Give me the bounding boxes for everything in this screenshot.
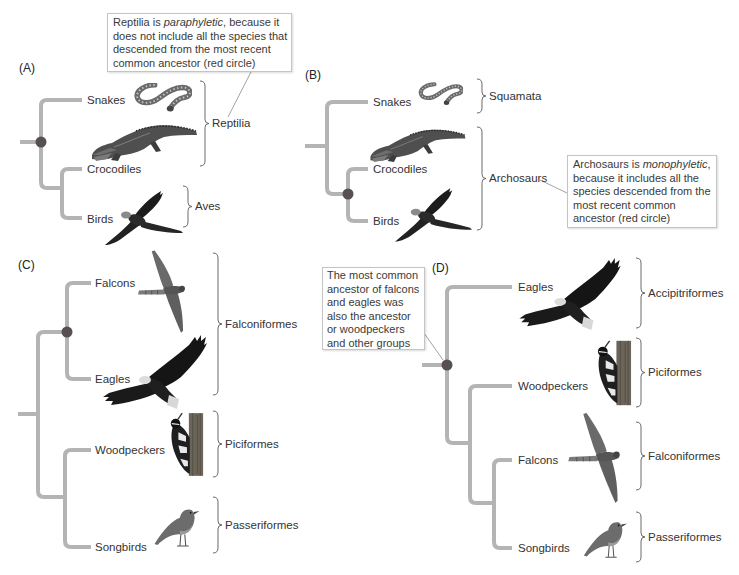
- bracket-aves: [183, 186, 192, 227]
- branch-woodpeckers: [470, 386, 512, 503]
- main-branch: [38, 332, 67, 497]
- callout-paraphyletic: Reptilia is paraphyletic, because it doe…: [107, 13, 292, 72]
- bracket-passeriformes: [636, 512, 645, 562]
- songbird-image: [584, 522, 627, 557]
- bracket-reptilia: [200, 81, 209, 166]
- snake-image: [137, 85, 190, 112]
- bird-image: [105, 191, 183, 245]
- phylogeny-figure: (A) Snakes Crocodiles Birds Reptilia Ave…: [0, 0, 739, 575]
- callout-pointer: [424, 333, 443, 360]
- bracket-archosaurs: [477, 127, 486, 230]
- panel-d-tree: [422, 258, 645, 562]
- group-label-archosaurs: Archosaurs: [489, 171, 547, 185]
- taxon-label-woodpeckers: Woodpeckers: [95, 443, 165, 457]
- bracket-passeriformes: [213, 497, 222, 553]
- callout-monophyletic: Archosaurs is monophyletic, because it i…: [567, 155, 717, 228]
- falcon-image: [138, 250, 185, 332]
- eagle-image: [519, 258, 620, 330]
- taxon-label-eagles: Eagles: [95, 372, 130, 386]
- taxon-label-birds: Birds: [373, 214, 399, 228]
- bird-image: [395, 188, 472, 241]
- branch-crocodiles-birds: [62, 169, 82, 218]
- callout-emphasis: monophyletic: [643, 158, 708, 170]
- callout-text: The most common ancestor of falcons and …: [327, 269, 419, 349]
- taxon-label-eagles: Eagles: [518, 280, 553, 294]
- bracket-piciformes: [636, 338, 645, 407]
- taxon-label-crocodiles: Crocodiles: [373, 162, 427, 176]
- bracket-accipitriformes: [636, 258, 645, 328]
- callout-text: Archosaurs is: [573, 158, 643, 170]
- panel-label: (B): [305, 68, 321, 82]
- ancestor-node: [36, 137, 47, 148]
- bracket-falconiformes: [636, 422, 645, 490]
- songbird-image: [155, 509, 200, 546]
- woodpecker-image: [171, 413, 203, 476]
- ancestor-node: [343, 189, 354, 200]
- ancestor-node: [62, 327, 73, 338]
- bracket-squamata: [477, 79, 486, 113]
- group-label-piciformes: Piciformes: [225, 437, 279, 451]
- taxon-label-falcons: Falcons: [518, 453, 558, 467]
- snake-image: [421, 84, 462, 105]
- group-label-falconiformes: Falconiformes: [648, 449, 720, 463]
- taxon-label-woodpeckers: Woodpeckers: [518, 379, 588, 393]
- crocodile-image: [370, 130, 465, 162]
- panel-label: (C): [18, 258, 35, 272]
- callout-pointer: [228, 72, 251, 117]
- group-label-aves: Aves: [195, 199, 220, 213]
- callout-common-ancestor: The most common ancestor of falcons and …: [322, 267, 425, 350]
- woodpecker-image: [598, 341, 631, 405]
- branch-falcons-songbirds: [494, 460, 512, 548]
- panel-a-tree: [20, 72, 251, 245]
- taxon-label-birds: Birds: [87, 212, 113, 226]
- taxon-label-falcons: Falcons: [95, 276, 135, 290]
- taxon-label-snakes: Snakes: [87, 93, 125, 107]
- taxon-label-crocodiles: Crocodiles: [87, 162, 141, 176]
- panel-label: (D): [432, 261, 449, 275]
- taxon-label-songbirds: Songbirds: [95, 540, 147, 554]
- ancestor-node: [442, 360, 453, 371]
- bracket-falconiformes: [213, 253, 222, 395]
- group-label-passeriformes: Passeriformes: [648, 530, 722, 544]
- panel-b-tree: [305, 79, 567, 242]
- branch-eagles: [447, 287, 512, 443]
- callout-text: Reptilia is: [113, 16, 164, 28]
- panel-c-tree: [18, 250, 222, 553]
- group-label-accipitriformes: Accipitriformes: [648, 286, 723, 300]
- group-label-falconiformes: Falconiformes: [225, 317, 297, 331]
- taxon-label-snakes: Snakes: [373, 95, 411, 109]
- falcon-image: [568, 413, 619, 503]
- callout-emphasis: paraphyletic: [164, 16, 223, 28]
- panel-label: (A): [19, 61, 35, 75]
- group-label-squamata: Squamata: [489, 89, 541, 103]
- bracket-piciformes: [213, 411, 222, 477]
- branch-woodpeckers-songbirds: [65, 450, 91, 547]
- group-label-piciformes: Piciformes: [648, 365, 702, 379]
- taxon-label-songbirds: Songbirds: [518, 541, 570, 555]
- group-label-passeriformes: Passeriformes: [225, 518, 299, 532]
- crocodile-image: [92, 125, 197, 161]
- group-label-reptilia: Reptilia: [212, 116, 250, 130]
